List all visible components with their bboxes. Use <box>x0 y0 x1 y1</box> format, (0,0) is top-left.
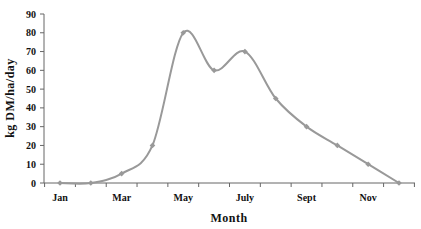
y-tick-label: 50 <box>26 84 36 95</box>
plot-area <box>57 30 402 186</box>
y-tick-label: 80 <box>26 27 36 38</box>
x-tick-label: May <box>174 192 193 203</box>
data-point-marker <box>57 180 63 186</box>
x-axis-title: Month <box>210 211 247 225</box>
x-tick-label: Jan <box>52 192 68 203</box>
y-tick-label: 30 <box>26 121 36 132</box>
x-tick-label: Sept <box>297 192 317 203</box>
x-tick-label: Mar <box>112 192 131 203</box>
y-axis-title: kg DM/ha/day <box>3 58 17 138</box>
y-tick-label: 20 <box>26 140 36 151</box>
y-tick-label: 60 <box>26 65 36 76</box>
x-axis: JanMarMayJulySeptNov <box>44 183 415 203</box>
x-tick-label: July <box>236 192 254 203</box>
y-axis: 0102030405060708090 <box>26 9 44 189</box>
data-point-marker <box>88 180 94 186</box>
y-tick-label: 10 <box>26 159 36 170</box>
y-tick-label: 70 <box>26 46 36 57</box>
x-tick-label: Nov <box>360 192 377 203</box>
y-tick-label: 90 <box>26 9 36 20</box>
y-tick-label: 0 <box>31 178 36 189</box>
series-line <box>60 31 399 184</box>
line-chart: 0102030405060708090 JanMarMayJulySeptNov… <box>0 0 421 229</box>
y-tick-label: 40 <box>26 102 36 113</box>
